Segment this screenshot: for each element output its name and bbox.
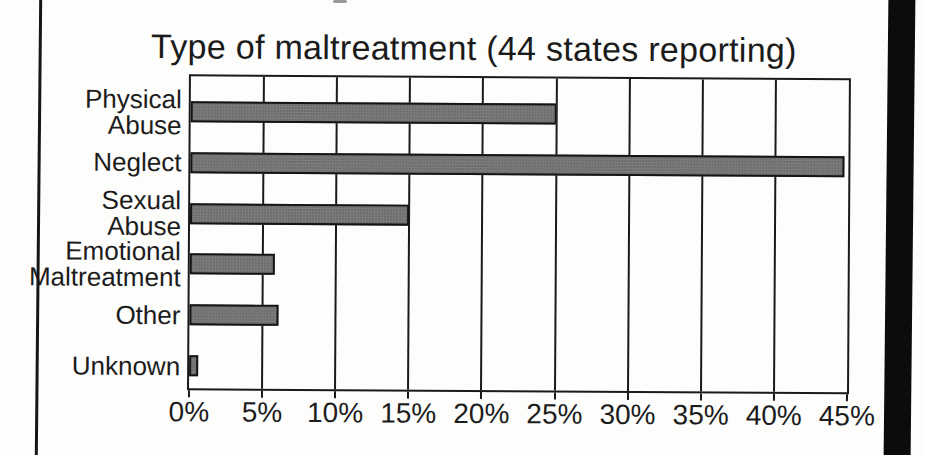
category-label-line: Neglect [93, 149, 181, 176]
x-tick-label-0pct: 0% [169, 397, 210, 427]
x-tick-label-30pct: 30% [599, 400, 655, 430]
category-label-neglect: Neglect [0, 148, 181, 175]
x-tick-label-25pct: 25% [526, 399, 582, 429]
gridline-10pct [334, 77, 338, 389]
category-label-line: Physical [85, 85, 182, 112]
gridline-25pct [554, 79, 558, 391]
gridline-5pct [261, 77, 265, 389]
bar-sexual-abuse [190, 203, 409, 225]
x-tick-label-15pct: 15% [380, 398, 436, 428]
bar-physical-abuse [191, 101, 557, 124]
scan-artifact [333, 0, 347, 3]
x-tick-label-5pct: 5% [242, 398, 283, 428]
category-label-line: Abuse [108, 111, 182, 137]
scanned-page: Type of maltreatment (44 states reportin… [0, 0, 925, 455]
bar-chart: Type of maltreatment (44 states reportin… [0, 0, 925, 455]
bar-other [189, 304, 278, 326]
x-tick-label-45pct: 45% [819, 401, 875, 431]
x-tick-label-35pct: 35% [673, 400, 729, 430]
bar-neglect [190, 152, 844, 177]
category-label-physical-abuse: PhysicalAbuse [1, 85, 182, 138]
bar-unknown [189, 355, 198, 376]
category-label-line: Other [115, 302, 180, 328]
gridline-40pct [773, 80, 777, 392]
category-label-emotional-maltreatment: EmotionalMaltreatment [0, 237, 181, 290]
gridline-15pct [407, 78, 411, 390]
x-tick-label-10pct: 10% [307, 398, 363, 428]
x-tick-label-20pct: 20% [453, 399, 509, 429]
plot-area [187, 74, 851, 394]
x-tick-label-40pct: 40% [746, 401, 802, 431]
category-label-unknown: Unknown [0, 352, 180, 379]
category-label-line: Maltreatment [29, 263, 181, 290]
category-label-other: Other [0, 301, 181, 328]
page-gutter-band [884, 0, 916, 455]
gridline-20pct [480, 78, 484, 390]
category-label-line: Unknown [72, 352, 181, 379]
gridline-30pct [627, 79, 631, 391]
category-label-line: Sexual [102, 187, 182, 213]
gridline-35pct [700, 79, 704, 391]
category-label-sexual-abuse: SexualAbuse [0, 186, 181, 239]
chart-title: Type of maltreatment (44 states reportin… [151, 29, 797, 67]
bar-emotional-maltreatment [190, 254, 275, 276]
category-label-line: Emotional [65, 237, 181, 264]
